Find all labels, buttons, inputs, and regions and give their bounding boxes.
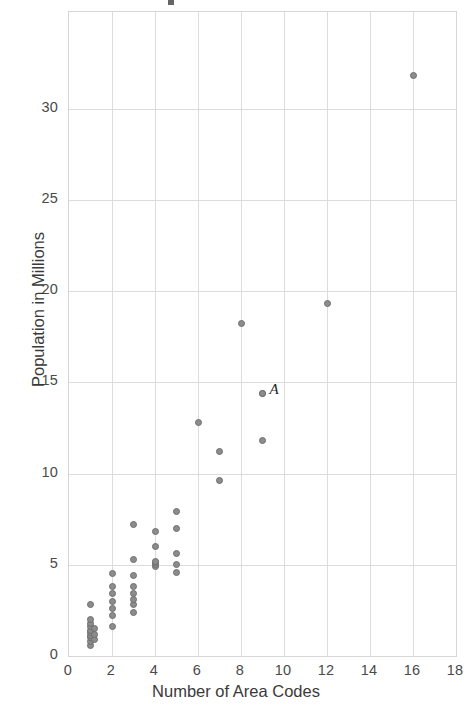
x-tick-label: 2 bbox=[91, 662, 131, 678]
data-point bbox=[109, 623, 116, 630]
gridline-horizontal bbox=[69, 474, 456, 475]
plot-area: A bbox=[68, 11, 457, 657]
data-point bbox=[109, 590, 116, 597]
data-point bbox=[324, 300, 331, 307]
gridline-horizontal bbox=[69, 291, 456, 292]
y-tick-label: 10 bbox=[12, 464, 58, 480]
data-point bbox=[130, 572, 137, 579]
gridline-horizontal bbox=[69, 109, 456, 110]
data-point bbox=[130, 556, 137, 563]
data-point bbox=[109, 612, 116, 619]
y-tick-label: 0 bbox=[12, 646, 58, 662]
data-point bbox=[216, 477, 223, 484]
data-point bbox=[238, 320, 245, 327]
gridline-horizontal bbox=[69, 382, 456, 383]
data-point bbox=[173, 561, 180, 568]
data-point bbox=[91, 625, 98, 632]
gridline-horizontal bbox=[69, 565, 456, 566]
data-point-annotated bbox=[259, 390, 266, 397]
y-tick-label: 30 bbox=[12, 99, 58, 115]
data-point bbox=[152, 528, 159, 535]
x-tick-label: 0 bbox=[48, 662, 88, 678]
y-tick-label: 5 bbox=[12, 555, 58, 571]
data-point bbox=[109, 605, 116, 612]
x-tick-label: 8 bbox=[220, 662, 260, 678]
x-tick-label: 16 bbox=[392, 662, 432, 678]
data-point bbox=[109, 583, 116, 590]
data-point bbox=[152, 558, 159, 565]
data-point bbox=[130, 583, 137, 590]
data-point bbox=[173, 525, 180, 532]
gridline-horizontal bbox=[69, 200, 456, 201]
data-point bbox=[410, 72, 417, 79]
y-axis-title: Population in Millions bbox=[29, 180, 48, 440]
x-tick-label: 4 bbox=[134, 662, 174, 678]
x-tick-label: 14 bbox=[349, 662, 389, 678]
data-point bbox=[173, 550, 180, 557]
data-point bbox=[173, 569, 180, 576]
data-point bbox=[109, 598, 116, 605]
data-point bbox=[130, 609, 137, 616]
scatter-plot-figure: A 051015202530 024681012141618 Populatio… bbox=[0, 0, 472, 713]
x-axis-title: Number of Area Codes bbox=[0, 682, 472, 701]
x-tick-label: 10 bbox=[263, 662, 303, 678]
data-point bbox=[216, 448, 223, 455]
cropped-title-remnant bbox=[168, 0, 174, 5]
x-tick-label: 12 bbox=[306, 662, 346, 678]
data-point bbox=[195, 419, 202, 426]
data-point bbox=[173, 508, 180, 515]
data-point bbox=[259, 437, 266, 444]
data-point bbox=[87, 616, 94, 623]
data-point bbox=[109, 570, 116, 577]
x-tick-label: 6 bbox=[177, 662, 217, 678]
x-tick-label: 18 bbox=[435, 662, 472, 678]
data-point bbox=[87, 601, 94, 608]
point-label-a: A bbox=[270, 381, 279, 398]
data-point bbox=[130, 521, 137, 528]
data-point bbox=[152, 543, 159, 550]
